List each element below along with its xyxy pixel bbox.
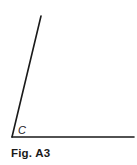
vertex-label: C (18, 124, 26, 136)
angle-diagram: C (0, 0, 137, 165)
figure-caption: Fig. A3 (11, 147, 50, 159)
slanted-ray (12, 16, 41, 137)
